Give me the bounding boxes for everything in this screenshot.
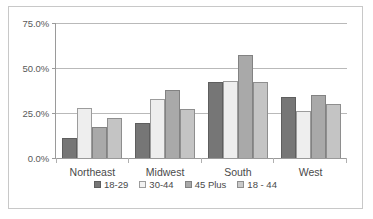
y-axis-tick-label: 25.0% bbox=[23, 108, 49, 119]
bar-group-bars bbox=[129, 23, 202, 158]
bar[interactable] bbox=[92, 127, 107, 159]
chart-container: 75.0%50.0%25.0%0.0%NortheastMidwestSouth… bbox=[8, 6, 363, 209]
x-axis-tick-label: Midwest bbox=[146, 166, 185, 178]
legend-item[interactable]: 18 - 44 bbox=[237, 179, 277, 190]
bar[interactable] bbox=[223, 81, 238, 158]
bar-group bbox=[56, 23, 129, 158]
legend-swatch-icon bbox=[94, 181, 101, 188]
bar-group-bars bbox=[56, 23, 129, 158]
x-tick-mark bbox=[346, 158, 347, 163]
legend-swatch-icon bbox=[139, 181, 146, 188]
bar[interactable] bbox=[62, 138, 77, 158]
bar-group-bars bbox=[274, 23, 347, 158]
x-axis-tick-label: West bbox=[299, 166, 323, 178]
bar-group-bars bbox=[202, 23, 275, 158]
bar[interactable] bbox=[253, 82, 268, 159]
y-gridline bbox=[56, 158, 347, 159]
x-tick-mark bbox=[128, 158, 129, 163]
legend-item[interactable]: 45 Plus bbox=[185, 179, 227, 190]
bar[interactable] bbox=[107, 118, 122, 158]
bar[interactable] bbox=[135, 123, 150, 158]
legend-item[interactable]: 30-44 bbox=[139, 179, 173, 190]
bar[interactable] bbox=[165, 90, 180, 158]
chart-legend: 18-2930-4445 Plus18 - 44 bbox=[9, 179, 362, 190]
legend-item-label: 30-44 bbox=[149, 179, 173, 190]
x-tick-mark bbox=[56, 158, 57, 163]
bar[interactable] bbox=[238, 55, 253, 159]
bar[interactable] bbox=[311, 95, 326, 158]
bar[interactable] bbox=[150, 99, 165, 158]
bar[interactable] bbox=[77, 108, 92, 158]
legend-item[interactable]: 18-29 bbox=[94, 179, 128, 190]
legend-item-label: 18 - 44 bbox=[247, 179, 277, 190]
legend-swatch-icon bbox=[237, 181, 244, 188]
y-axis-tick-label: 0.0% bbox=[28, 153, 49, 164]
y-axis-tick-label: 75.0% bbox=[23, 18, 49, 29]
x-tick-mark bbox=[273, 158, 274, 163]
x-axis-tick-label: Northeast bbox=[70, 166, 116, 178]
bar[interactable] bbox=[281, 97, 296, 158]
bar[interactable] bbox=[326, 104, 341, 158]
bar-group bbox=[274, 23, 347, 158]
legend-item-label: 45 Plus bbox=[195, 179, 227, 190]
bar[interactable] bbox=[208, 82, 223, 158]
bar-group bbox=[129, 23, 202, 158]
legend-item-label: 18-29 bbox=[104, 179, 128, 190]
bar[interactable] bbox=[296, 111, 311, 158]
x-tick-mark bbox=[201, 158, 202, 163]
bar[interactable] bbox=[180, 109, 195, 158]
x-axis-tick-label: South bbox=[224, 166, 251, 178]
bar-group bbox=[202, 23, 275, 158]
plot-area: 75.0%50.0%25.0%0.0%NortheastMidwestSouth… bbox=[55, 23, 347, 158]
legend-swatch-icon bbox=[185, 181, 192, 188]
y-axis-tick-label: 50.0% bbox=[23, 63, 49, 74]
